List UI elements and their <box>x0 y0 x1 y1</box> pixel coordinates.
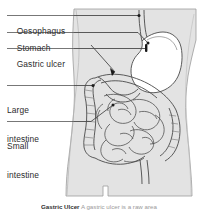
label-small-intestine-line2: intestine <box>7 171 39 181</box>
caption-title: Gastric Ulcer <box>41 203 80 210</box>
leader-dot-oesophagus <box>138 14 141 17</box>
torso-silhouette <box>66 9 196 196</box>
label-small-intestine-line1: Small <box>7 142 39 152</box>
figure-caption: Gastric Ulcer A gastric ulcer is a raw a… <box>41 203 201 210</box>
leader-dot-large <box>92 84 95 87</box>
label-gastric-ulcer: Gastric ulcer <box>7 50 65 79</box>
label-gastric-ulcer-text: Gastric ulcer <box>17 59 65 69</box>
label-small-intestine: Small intestine <box>7 123 39 200</box>
caption-body: A gastric ulcer is a raw area <box>81 203 157 210</box>
label-large-intestine-line1: Large <box>7 106 39 116</box>
figure-page: Oesophagus Stomach Gastric ulcer Large i… <box>0 0 206 212</box>
leader-dot-small <box>112 104 115 107</box>
leader-dot-stomach <box>147 42 150 45</box>
gastric-ulcer-marker <box>145 44 147 52</box>
